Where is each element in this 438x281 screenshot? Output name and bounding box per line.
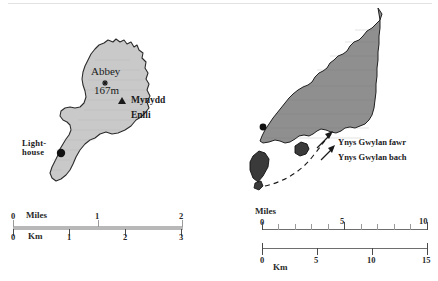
right-miles-tickmark-10 (427, 222, 428, 230)
label-abbey: Abbey (91, 66, 120, 78)
right-km-endcap-left (262, 243, 263, 249)
right-map-panel: Aberdaron Ynys Gwylan fawr Ynys Gwylan b… (235, 0, 438, 281)
right-km-tickmark-10 (372, 248, 373, 255)
label-ynys-gwylan-bach: Ynys Gwylan bach (338, 153, 407, 162)
right-miles-tickmark-4 (328, 224, 329, 230)
right-miles-tickmark-2 (295, 224, 296, 230)
right-km-bar-line (262, 248, 427, 249)
left-miles-tickmark-2 (182, 220, 183, 227)
left-km-tick-0: 0 (11, 232, 15, 242)
right-km-tickmark-0 (262, 248, 263, 255)
label-enlli: Enlli (131, 111, 151, 121)
right-miles-tickmark-9 (410, 224, 411, 230)
left-miles-tickmark-0 (13, 220, 14, 227)
label-mynydd: Mynydd (131, 96, 165, 106)
right-miles-tickmark-6 (361, 224, 362, 230)
label-ynys-gwylan-fawr: Ynys Gwylan fawr (338, 138, 406, 147)
label-lighthouse-line2: house (22, 148, 44, 157)
right-km-tickmark-15 (427, 248, 428, 255)
right-km-tickmark-5 (317, 248, 318, 255)
left-km-unit: Km (28, 231, 43, 241)
right-miles-tickmark-0 (262, 222, 263, 230)
right-km-unit: Km (273, 262, 288, 272)
left-km-tick-1: 1 (67, 232, 71, 242)
right-miles-unit: Miles (255, 206, 276, 216)
left-km-tick-3: 3 (179, 232, 183, 242)
left-miles-unit: Miles (26, 210, 47, 220)
lleyn-peninsula-landmass (260, 8, 382, 143)
right-miles-tickmark-1 (278, 224, 279, 230)
right-miles-tickmark-3 (311, 224, 312, 230)
right-km-tick-2: 10 (367, 255, 376, 265)
label-summit-height: 167m (94, 85, 119, 97)
lleyn-peninsula-shape (235, 0, 438, 210)
left-miles-tickmark-1 (98, 220, 99, 227)
right-miles-tickmark-5 (344, 222, 345, 230)
right-miles-tickmark-7 (377, 224, 378, 230)
right-miles-tickmark-8 (394, 224, 395, 230)
right-km-tick-3: 15 (422, 255, 431, 265)
right-km-tick-1: 5 (314, 255, 318, 265)
left-map-panel: Abbey 167m Mynydd Enlli Light- house 0 1… (0, 0, 210, 281)
right-km-tick-0: 0 (260, 255, 264, 265)
bardsey-island-shape (0, 0, 210, 210)
right-km-endcap-right (427, 243, 428, 249)
left-km-tick-2: 2 (123, 232, 127, 242)
map-figure: Abbey 167m Mynydd Enlli Light- house 0 1… (0, 0, 438, 281)
